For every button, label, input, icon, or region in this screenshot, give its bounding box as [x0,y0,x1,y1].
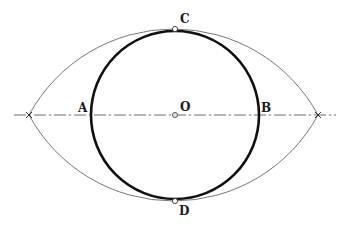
label-d: D [179,204,189,218]
point-c [172,26,177,31]
point-d [172,198,177,203]
point-o [172,112,177,117]
lower-arc [29,115,318,201]
upper-arc [29,29,318,115]
label-o: O [180,100,190,114]
left-vertex-mark [26,112,32,118]
label-a: A [77,101,88,115]
label-b: B [261,101,271,115]
label-c: C [180,12,190,26]
geometry-diagram: C D A B O [0,0,345,229]
